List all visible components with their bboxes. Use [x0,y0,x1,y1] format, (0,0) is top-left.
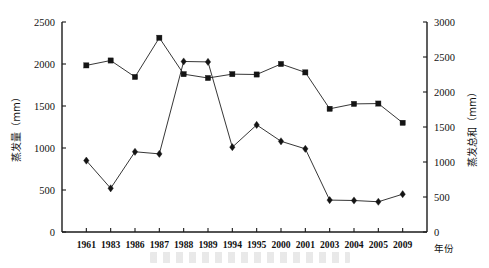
data-point-square [108,58,113,63]
x-axis-category-label: 2005 [369,239,388,250]
x-axis-category-label: 2009 [393,239,412,250]
watermark-band [150,252,350,263]
x-axis-category-label: 1983 [101,239,120,250]
data-point-diamond [278,138,283,145]
data-point-square [376,101,381,106]
right-axis-tick-label: 0 [434,227,439,238]
data-point-square [181,72,186,77]
x-axis-category-label: 2000 [271,239,290,250]
data-point-diamond [303,145,308,152]
data-point-square [84,63,89,68]
data-point-diamond [400,191,405,198]
data-point-diamond [181,58,186,65]
x-axis-category-label: 2003 [320,239,339,250]
x-axis-category-label: 2004 [344,239,363,250]
x-axis-category-label: 1987 [150,239,169,250]
data-point-diamond [230,144,235,151]
left-axis-tick-label: 1500 [34,101,55,112]
x-axis-title: 年份 [434,243,454,254]
x-axis-category-label: 1988 [174,239,193,250]
data-point-square [205,75,210,80]
evaporation-dual-axis-line-chart: 05001000150020002500 0500100015002000250… [0,0,489,268]
x-axis-category-label: 2001 [296,239,315,250]
data-point-square [303,70,308,75]
series-markers [84,35,406,205]
left-axis-tick-label: 2000 [34,59,55,70]
left-axis-tick-label: 500 [39,185,55,196]
series-polylines [86,38,402,202]
left-axis-tick-label: 1000 [34,143,55,154]
data-point-diamond [376,198,381,205]
data-point-diamond [327,196,332,203]
chart-container: 05001000150020002500 0500100015002000250… [0,0,489,268]
right-axis-tick-label: 3000 [434,17,455,28]
right-axis-tick-label: 1000 [434,157,455,168]
data-point-square [278,61,283,66]
data-point-square [132,74,137,79]
x-axis-category-label: 1994 [223,239,242,250]
data-point-diamond [157,150,162,157]
data-point-square [327,106,332,111]
data-point-diamond [205,58,210,65]
x-axis-category-label: 1961 [77,239,96,250]
right-axis-tick-label: 2500 [434,52,455,63]
right-axis-tick-label: 2000 [434,87,455,98]
data-point-square [157,35,162,40]
data-point-square [400,120,405,125]
left-axis-tick-label: 2500 [34,17,55,28]
series-line-2 [86,61,402,201]
x-axis-category-label: 1995 [247,239,266,250]
left-axis-tick-label: 0 [50,227,55,238]
data-point-diamond [254,121,259,128]
x-axis-category-label: 1986 [125,239,144,250]
right-axis-title: 蒸发总和（mm） [466,87,478,166]
svg-text:蒸发总和（mm）: 蒸发总和（mm） [466,87,478,166]
series-line-1 [86,38,402,123]
x-axis-category-labels: 1961198319861987198819891994199520002001… [77,239,413,250]
right-axis-tick-label: 1500 [434,122,455,133]
data-point-square [230,72,235,77]
x-axis-category-label: 1989 [198,239,217,250]
svg-text:蒸发量（mm）: 蒸发量（mm） [10,92,22,161]
data-point-square [254,72,259,77]
data-point-square [351,101,356,106]
left-axis-tick-labels: 05001000150020002500 [34,17,55,238]
right-axis-tick-label: 500 [434,192,450,203]
right-axis-tick-labels: 050010001500200025003000 [434,17,455,238]
data-point-diamond [351,197,356,204]
left-axis-title: 蒸发量（mm） [10,92,22,161]
